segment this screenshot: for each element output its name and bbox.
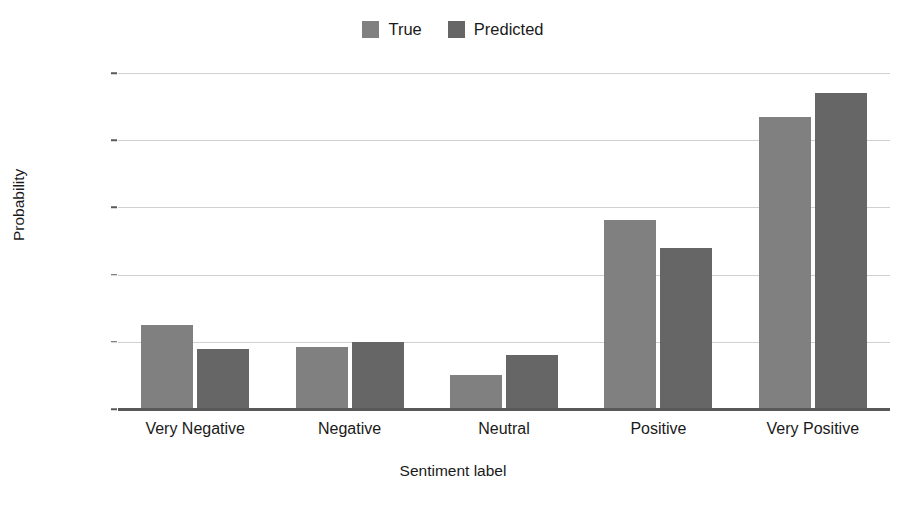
- x-axis-title: Sentiment label: [0, 462, 906, 480]
- legend-swatch-true: [362, 21, 379, 38]
- bar-true[interactable]: [604, 220, 656, 409]
- bar-predicted[interactable]: [815, 93, 867, 409]
- y-axis-title: Probability: [10, 169, 28, 241]
- plot-area: [118, 73, 890, 409]
- bar-predicted[interactable]: [660, 248, 712, 409]
- bar-predicted[interactable]: [197, 349, 249, 409]
- bar-true[interactable]: [296, 347, 348, 409]
- y-tick-mark: [111, 139, 117, 141]
- y-tick-mark: [111, 207, 117, 209]
- bar-true[interactable]: [141, 325, 193, 409]
- x-tick-label: Very Positive: [767, 420, 859, 438]
- x-tick-label: Very Negative: [145, 420, 245, 438]
- x-axis-line: [118, 408, 890, 411]
- bar-group: [450, 73, 558, 409]
- bar-true[interactable]: [450, 375, 502, 409]
- bar-group: [759, 73, 867, 409]
- x-tick-label: Positive: [630, 420, 686, 438]
- y-tick-mark: [111, 341, 117, 343]
- x-tick-label: Neutral: [478, 420, 530, 438]
- x-tick-label: Negative: [318, 420, 381, 438]
- y-tick-mark: [111, 408, 117, 410]
- bar-group: [141, 73, 249, 409]
- legend-swatch-predicted: [448, 21, 465, 38]
- bar-predicted[interactable]: [352, 342, 404, 409]
- legend-label: Predicted: [474, 20, 544, 39]
- bar-group: [604, 73, 712, 409]
- legend-label: True: [388, 20, 421, 39]
- bar-group: [296, 73, 404, 409]
- legend-entry-predicted[interactable]: Predicted: [448, 20, 544, 39]
- y-tick-mark: [111, 72, 117, 74]
- y-tick-mark: [111, 274, 117, 276]
- bar-predicted[interactable]: [506, 355, 558, 409]
- bar-chart-figure: TruePredicted Probability Sentiment labe…: [0, 0, 906, 512]
- bar-true[interactable]: [759, 117, 811, 409]
- legend-entry-true[interactable]: True: [362, 20, 421, 39]
- chart-legend: TruePredicted: [0, 20, 906, 39]
